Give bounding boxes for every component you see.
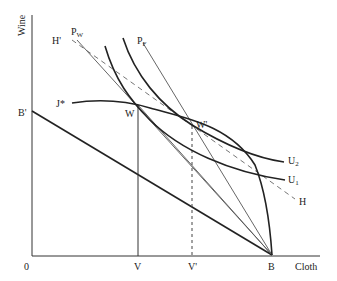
transformation-curve (72, 101, 272, 255)
label-u2: U2 (288, 155, 299, 168)
label-v-prime: V' (188, 261, 197, 272)
label-pw: PW (71, 26, 84, 39)
indifference-curve-u2 (123, 38, 284, 162)
y-axis-label: Wine (16, 14, 27, 36)
label-h-prime: H' (52, 35, 61, 46)
label-b: B (268, 261, 275, 272)
trade-diagram: Wine Cloth 0 B' B V V' W W' J* H' H PW P… (0, 0, 337, 281)
label-v: V (134, 261, 142, 272)
label-w: W (125, 108, 135, 119)
budget-line-bprime-b (32, 111, 272, 255)
label-u1: U1 (288, 174, 299, 187)
label-j-star: J* (56, 98, 65, 109)
label-w-prime: W' (196, 119, 207, 130)
x-axis-label: Cloth (295, 261, 317, 272)
label-h: H (299, 196, 306, 207)
label-pf: PF (137, 35, 147, 48)
label-b-prime: B' (18, 107, 27, 118)
price-line-pf (143, 43, 272, 255)
origin-label: 0 (24, 261, 29, 272)
